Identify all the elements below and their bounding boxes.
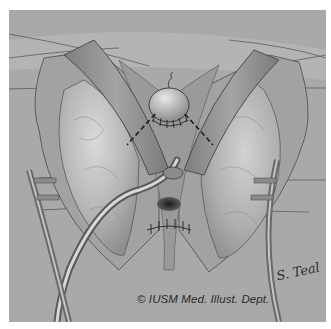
copyright-credit: © IUSM Med. Illust. Dept. <box>137 293 269 305</box>
illustration-frame: S. Teal © IUSM Med. Illust. Dept. <box>9 10 326 322</box>
urethral-meatus <box>163 167 183 179</box>
suture-knot <box>168 72 173 88</box>
rectal-opening <box>157 197 181 211</box>
bladder-neck <box>149 88 189 122</box>
